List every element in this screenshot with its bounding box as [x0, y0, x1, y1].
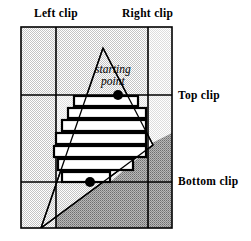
right-clip-label: Right clip	[122, 7, 173, 19]
diagram-canvas	[0, 0, 251, 241]
starting-point-label-line2: point	[101, 75, 125, 87]
span-bar	[56, 133, 146, 144]
lower-point-dot	[85, 177, 95, 187]
left-clip-label: Left clip	[34, 7, 78, 19]
clipping-diagram: Left clip Right clip Top clip Bottom cli…	[0, 0, 251, 241]
top-clip-label: Top clip	[178, 89, 220, 101]
region-dark-right	[148, 133, 172, 228]
bottom-clip-label: Bottom clip	[178, 175, 238, 187]
starting-point-label-line1: starting	[95, 63, 131, 75]
scanline-spans	[54, 96, 146, 182]
starting-point-label: starting point	[95, 64, 131, 87]
starting-point-dot	[113, 90, 123, 100]
